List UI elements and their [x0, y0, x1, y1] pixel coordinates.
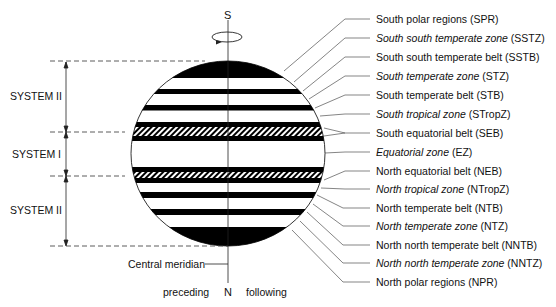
region-name: North north temperate zone [376, 257, 504, 269]
region-abbr: (NNTB) [499, 239, 538, 251]
region-abbr: (SEB) [472, 127, 503, 139]
region-label: Equatorial zone (EZ) [376, 146, 472, 158]
region-name: South temperate belt [376, 89, 473, 101]
system-ii-north-label: SYSTEM II [10, 204, 62, 216]
band-neb-n [120, 178, 340, 183]
south-label: S [224, 9, 231, 21]
region-label: North temperate zone (NTZ) [376, 220, 508, 232]
region-label: South equatorial belt (SEB) [376, 127, 503, 139]
region-abbr: (STB) [473, 89, 503, 101]
rotation-arrow-icon [212, 32, 242, 45]
region-label: North polar regions (NPR) [376, 276, 497, 288]
band-neb-hatch [120, 172, 340, 178]
system-ii-south-label: SYSTEM II [10, 90, 62, 102]
band-ntb [120, 192, 340, 198]
region-label: North tropical zone (NTropZ) [376, 183, 509, 195]
system-extent-arrows [64, 62, 68, 246]
following-label: following [246, 286, 287, 298]
region-abbr: (SPR) [467, 13, 499, 25]
region-abbr: (STZ) [479, 70, 509, 82]
region-abbr: (EZ) [449, 146, 472, 158]
region-label: North equatorial belt (NEB) [376, 165, 502, 177]
band-seb-n [120, 136, 340, 141]
band-spr [120, 55, 340, 78]
region-label: South tropical zone (STropZ) [376, 108, 510, 120]
region-name: North tropical zone [376, 183, 464, 195]
region-name: North equatorial belt [376, 165, 471, 177]
region-name: South south temperate zone [376, 32, 508, 44]
region-label: North north temperate zone (NNTZ) [376, 257, 542, 269]
band-npr [120, 227, 340, 252]
region-abbr: (NPR) [465, 276, 497, 288]
preceding-label: preceding [163, 286, 209, 298]
region-name: North north temperate belt [376, 239, 499, 251]
region-label: North north temperate belt (NNTB) [376, 239, 537, 251]
region-abbr: (NNTZ) [504, 257, 542, 269]
region-name: South tropical zone [376, 108, 466, 120]
region-name: Equatorial zone [376, 146, 449, 158]
region-label: South polar regions (SPR) [376, 13, 499, 25]
region-name: South south temperate belt [376, 51, 502, 63]
region-name: North polar regions [376, 276, 465, 288]
north-label: N [224, 286, 232, 298]
region-label: South temperate belt (STB) [376, 89, 504, 101]
region-name: North temperate zone [376, 220, 478, 232]
region-abbr: (STropZ) [466, 108, 511, 120]
region-abbr: (SSTB) [502, 51, 539, 63]
system-i-label: SYSTEM I [12, 148, 61, 160]
region-label: South south temperate belt (SSTB) [376, 51, 539, 63]
region-name: South polar regions [376, 13, 467, 25]
band-seb-s [120, 122, 340, 127]
band-sstb [120, 89, 340, 94]
region-label: South temperate zone (STZ) [376, 70, 509, 82]
region-abbr: (NTZ) [478, 220, 508, 232]
region-abbr: (SSTZ) [508, 32, 545, 44]
region-label: South south temperate zone (SSTZ) [376, 32, 545, 44]
region-abbr: (NEB) [471, 165, 503, 177]
region-abbr: (NTropZ) [464, 183, 509, 195]
planet-disk [120, 55, 340, 255]
central-meridian-label: Central meridian [128, 258, 205, 270]
band-neb-s [120, 167, 340, 172]
region-abbr: (NTB) [472, 202, 503, 214]
band-seb-hatch [120, 127, 340, 136]
region-label: North temperate belt (NTB) [376, 202, 503, 214]
region-name: South temperate zone [376, 70, 479, 82]
region-name: South equatorial belt [376, 127, 472, 139]
region-name: North temperate belt [376, 202, 472, 214]
band-stb [120, 105, 340, 111]
